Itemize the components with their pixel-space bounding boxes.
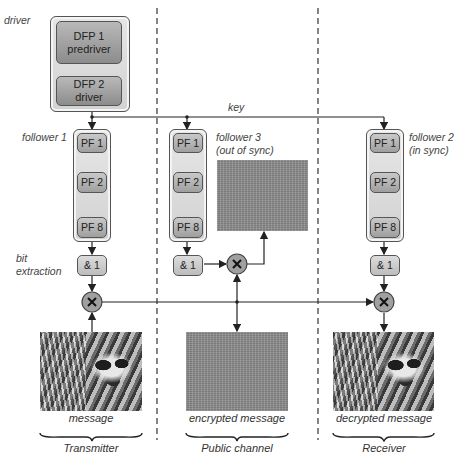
follower-3-title: follower 3 [216,131,274,144]
message-caption: message [30,412,152,424]
brace-public-channel [186,433,288,441]
pf1-block: PF 1 [173,133,203,153]
encrypted-message-caption: encrypted message [172,412,302,424]
pf8-block: PF 8 [173,217,203,238]
follower-1-label: follower 1 [22,131,67,144]
pf8-block: PF 8 [77,217,107,238]
section-transmitter: Transmitter [30,442,152,454]
dfp2-driver-block: DFP 2driver [56,76,122,106]
follower-3-label: follower 3 (out of sync) [216,131,274,157]
section-receiver: Receiver [320,442,448,454]
dfp1-predriver-block: DFP 1predriver [56,21,122,64]
dfp2-subtitle: driver [74,91,105,104]
bit-extraction-line2: extraction [16,265,62,278]
pf1-block: PF 1 [77,133,107,153]
pf2-block: PF 2 [173,172,203,193]
dfp1-subtitle: predriver [67,43,110,56]
key-label: key [228,101,244,114]
brace-transmitter [40,433,142,441]
multiply-icon [227,254,247,274]
driver-label: driver [4,14,30,27]
dfp1-title: DFP 1 [67,30,110,43]
decrypted-message-caption: decrypted message [320,412,448,424]
section-public-channel: Public channel [172,442,302,454]
pf1-block: PF 1 [370,133,400,153]
pf2-block: PF 2 [370,172,400,193]
pf2-block: PF 2 [77,172,107,193]
bit-extraction-block: & 1 [370,255,400,276]
decrypted-message-image [333,332,434,411]
follower-2-label: follower 2 (in sync) [409,131,454,157]
dfp2-title: DFP 2 [74,78,105,91]
message-image [40,332,142,411]
out-of-sync-noise-image [217,160,308,231]
pf8-block: PF 8 [370,217,400,238]
brace-receiver [333,433,434,441]
bit-extraction-label: bit extraction [16,252,62,278]
bit-extraction-block: & 1 [77,255,107,276]
multiply-icon [82,292,102,312]
multiply-icon [374,292,394,312]
follower-2-status: (in sync) [409,144,454,157]
bit-extraction-line1: bit [16,252,62,265]
follower-2-title: follower 2 [409,131,454,144]
encrypted-message-image [186,332,288,411]
follower-3-status: (out of sync) [216,144,274,157]
bit-extraction-block: & 1 [173,255,203,276]
